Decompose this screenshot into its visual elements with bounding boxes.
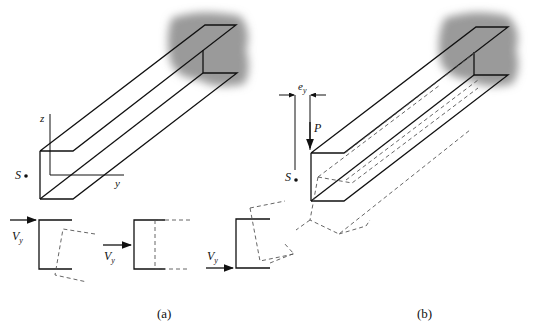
cross-section-3: Vy (206, 201, 294, 268)
shear-center-b: S (285, 170, 298, 184)
force-label-1: Vy (12, 229, 23, 245)
load-label: P (313, 121, 322, 135)
wall-support-a (168, 12, 249, 86)
force-label-3: Vy (207, 249, 218, 265)
caption-b: (b) (417, 306, 432, 321)
axis-y-label: y (114, 177, 120, 189)
cross-section-1: Vy (10, 220, 95, 282)
shear-center-label-b: S (285, 170, 291, 184)
load-p: P (310, 121, 322, 148)
figure-svg: z y S Vy Vy Vy (a) (0, 0, 538, 328)
force-label-2: Vy (104, 249, 115, 265)
eccentricity-label: ey (298, 80, 307, 95)
shear-center-dot-b (294, 178, 298, 182)
shear-center-dot-a (24, 174, 28, 178)
panel-a: z y S Vy Vy Vy (a) (10, 12, 294, 321)
axis-z-label: z (39, 112, 45, 124)
cross-section-2: Vy (103, 220, 190, 269)
panel-b: ey P S (b) (270, 12, 518, 321)
shear-center-a: S (15, 168, 28, 182)
figure-canvas: z y S Vy Vy Vy (a) (0, 0, 538, 328)
caption-a: (a) (157, 306, 171, 321)
shear-center-label-a: S (15, 168, 21, 182)
